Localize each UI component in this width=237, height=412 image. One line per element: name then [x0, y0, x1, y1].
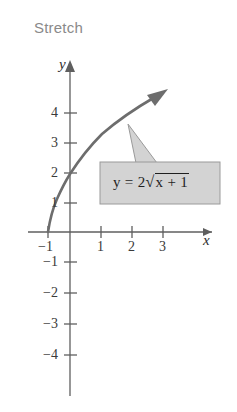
x-tick-label-2: 2	[128, 239, 135, 255]
y-tick-label-neg3: −3	[43, 316, 58, 332]
graph-figure: Stretch y x −1 1 2 3 4	[0, 0, 237, 412]
y-axis-arrowhead	[65, 60, 75, 72]
y-tick-label-3: 3	[51, 135, 58, 151]
x-tick-label-neg1: −1	[38, 239, 53, 255]
equation-lhs: y = 2	[113, 174, 145, 190]
y-tick-label-4: 4	[51, 105, 58, 121]
callout-pointer	[128, 124, 157, 163]
x-tick-label-1: 1	[97, 239, 104, 255]
x-axis-label: x	[203, 232, 210, 249]
y-tick-label-2: 2	[51, 165, 58, 181]
callout-equation: y = 2√x + 1	[113, 173, 189, 191]
y-tick-label-neg1: −1	[43, 254, 58, 270]
y-axis-label: y	[59, 56, 66, 73]
plot-canvas	[0, 0, 237, 412]
y-tick-label-1: 1	[51, 195, 58, 211]
radical-icon: √	[145, 173, 154, 190]
y-tick-label-neg2: −2	[43, 285, 58, 301]
curve-arrowhead	[147, 89, 168, 106]
y-tick-label-neg4: −4	[43, 347, 58, 363]
x-tick-label-3: 3	[159, 239, 166, 255]
equation-radicand: x + 1	[155, 173, 189, 190]
